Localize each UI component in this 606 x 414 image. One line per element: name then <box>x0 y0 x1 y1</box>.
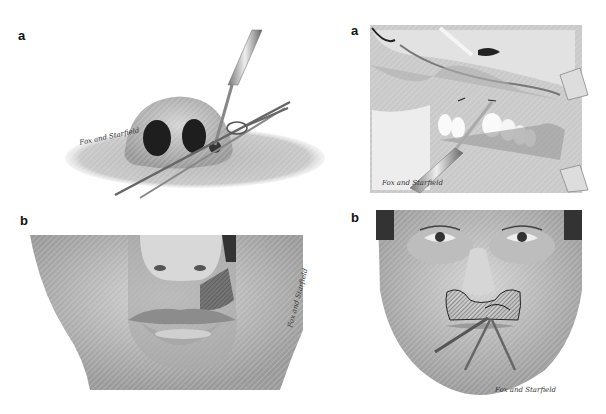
panel-bottom-left-lower-face: Fox and Starfield <box>30 235 310 390</box>
hair-right <box>564 210 582 240</box>
panel-label-top-right: a <box>351 23 358 38</box>
panel-label-top-left: a <box>18 28 25 43</box>
signature: Fox and Starfield <box>494 386 556 394</box>
panel-top-right-intraoral: Fox and Starfield <box>370 25 588 193</box>
figure-canvas: Fox and Starfield <box>0 0 606 414</box>
panel-label-bottom-left: b <box>20 213 28 228</box>
panel-label-bottom-right: b <box>351 210 359 225</box>
hair-left <box>376 210 394 240</box>
panel-top-left-nose: Fox and Starfield <box>65 30 325 198</box>
signature: Fox and Starfield <box>381 179 443 187</box>
panel-bottom-right-face: Fox and Starfield <box>376 210 582 395</box>
nostril-left <box>143 120 171 156</box>
